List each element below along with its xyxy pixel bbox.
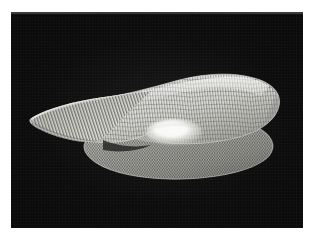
surface-plot	[11, 12, 303, 228]
figure-plate	[11, 12, 303, 228]
figure-root	[0, 0, 315, 240]
halftone-screen	[11, 12, 303, 228]
